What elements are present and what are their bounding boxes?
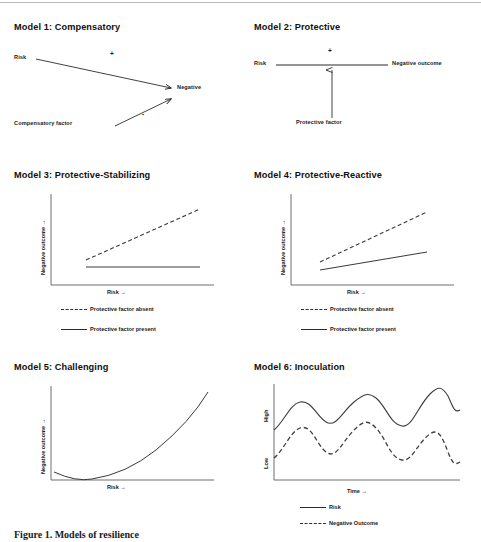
model-3-legend-present-label: Protective factor present xyxy=(90,326,156,332)
panel-model-1: Model 1: Compensatory Risk Compensatory … xyxy=(14,22,234,152)
model-3-axes xyxy=(51,194,214,285)
model-1-compensatory-arrow xyxy=(115,99,171,126)
dashed-line-key-icon xyxy=(300,523,326,524)
panel-model-3: Model 3: Protective-Stabilizing Negative… xyxy=(14,170,234,345)
model-6-legend-outcome-label: Negative Outcome xyxy=(329,520,378,526)
page-top-rule xyxy=(0,2,481,3)
model-6-legend-outcome: Negative Outcome xyxy=(300,520,378,526)
model-4-legend-absent-label: Protective factor absent xyxy=(330,306,394,312)
model-4-line-present xyxy=(320,252,427,270)
figure-caption: Figure 1. Models of resilience xyxy=(14,529,139,540)
panel-model-4: Model 4: Protective-Reactive Negative ou… xyxy=(254,170,474,345)
model-1-risk-arrow xyxy=(36,59,171,88)
model-6-plot xyxy=(254,362,474,487)
model-3-plot xyxy=(14,170,234,290)
panel-model-6: Model 6: Inoculation High Low Time → Ris… xyxy=(254,362,474,532)
solid-line-key-icon xyxy=(61,329,87,330)
panel-model-5: Model 5: Challenging Negative outcome → … xyxy=(14,362,234,512)
model-4-legend-absent: Protective factor absent xyxy=(301,306,394,312)
model-6-risk-wave xyxy=(274,388,460,430)
solid-line-key-icon xyxy=(301,329,327,330)
model-4-plot xyxy=(254,170,474,290)
dashed-line-key-icon xyxy=(61,309,87,310)
solid-line-key-icon xyxy=(300,507,326,508)
model-4-axes xyxy=(291,194,454,285)
model-6-legend-risk-label: Risk xyxy=(329,504,341,510)
model-1-arrow-diagram xyxy=(14,22,234,152)
model-6-outcome-wave xyxy=(274,422,460,463)
model-5-plot xyxy=(14,362,234,487)
model-3-legend-absent: Protective factor absent xyxy=(61,306,154,312)
model-4-legend-present-label: Protective factor present xyxy=(330,326,396,332)
model-2-arrow-diagram xyxy=(254,22,474,152)
model-3-legend-present: Protective factor present xyxy=(61,326,156,332)
panel-model-2: Model 2: Protective Risk Negative outcom… xyxy=(254,22,474,152)
model-6-x-axis-label: Time → xyxy=(347,488,367,494)
model-3-line-absent xyxy=(86,209,200,260)
dashed-line-key-icon xyxy=(301,309,327,310)
model-5-challenging-curve xyxy=(54,392,208,480)
model-6-legend-risk: Risk xyxy=(300,504,341,510)
model-4-legend-present: Protective factor present xyxy=(301,326,396,332)
model-3-legend-absent-label: Protective factor absent xyxy=(90,306,154,312)
